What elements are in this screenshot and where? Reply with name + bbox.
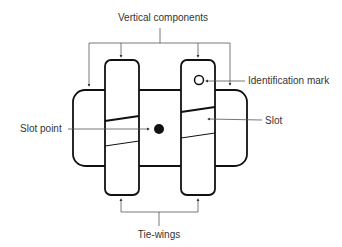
identification-mark-circle — [195, 76, 204, 85]
vertical-components-label: Vertical components — [118, 12, 208, 23]
slot-point-label: Slot point — [20, 123, 62, 134]
tie-wings-label: Tie-wings — [138, 229, 180, 240]
left-vertical-component — [105, 60, 139, 195]
identification-mark-label: Identification mark — [248, 75, 330, 86]
bracket-diagram: Vertical components Identification mark … — [0, 0, 342, 247]
slot-label: Slot — [265, 115, 282, 126]
tie-wings-leaders — [121, 199, 198, 226]
slot-point-dot — [154, 124, 164, 134]
